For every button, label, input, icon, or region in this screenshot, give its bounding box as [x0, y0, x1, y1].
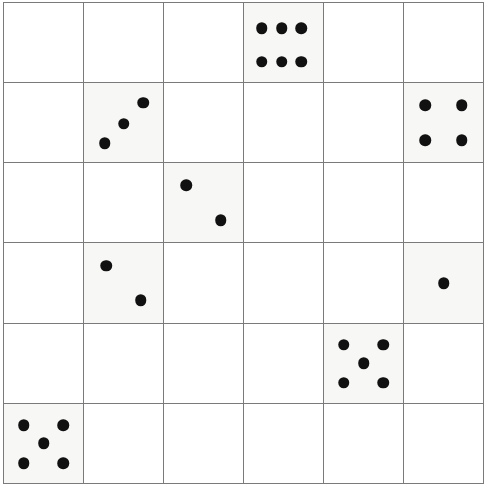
die-pip [276, 23, 288, 35]
die-pip [99, 138, 111, 150]
die-pip [138, 97, 150, 109]
die-pip [256, 23, 268, 35]
die-face-five [324, 324, 403, 403]
empty-cell-r4c4[interactable] [244, 243, 324, 323]
die-face-three [84, 83, 163, 162]
empty-cell-r3c2[interactable] [84, 163, 164, 243]
die-pip [18, 457, 30, 469]
die-pip [256, 56, 268, 68]
die-pip [420, 134, 432, 146]
die-cell-r4c2[interactable] [84, 243, 164, 323]
empty-cell-r4c3[interactable] [164, 243, 244, 323]
empty-cell-r2c5[interactable] [324, 83, 404, 163]
die-face-two [164, 163, 243, 242]
die-face-four [404, 83, 483, 162]
die-face-five [4, 404, 83, 483]
die-cell-r5c5[interactable] [324, 324, 404, 404]
die-cell-r3c3[interactable] [164, 163, 244, 243]
empty-cell-r2c4[interactable] [244, 83, 324, 163]
empty-cell-r5c1[interactable] [4, 324, 84, 404]
empty-cell-r3c6[interactable] [404, 163, 484, 243]
die-pip [456, 100, 468, 112]
empty-cell-r2c3[interactable] [164, 83, 244, 163]
die-pip [135, 295, 147, 307]
die-face-six [244, 3, 323, 82]
empty-cell-r6c2[interactable] [84, 404, 164, 484]
empty-cell-r4c1[interactable] [4, 243, 84, 323]
die-pip [296, 56, 308, 68]
dice-grid-board [3, 2, 484, 484]
die-pip [420, 100, 432, 112]
die-face-two [84, 243, 163, 322]
die-pip [338, 339, 350, 351]
die-pip [456, 134, 468, 146]
die-pip [100, 260, 112, 272]
empty-cell-r4c5[interactable] [324, 243, 404, 323]
die-cell-r2c6[interactable] [404, 83, 484, 163]
die-pip [180, 180, 192, 192]
empty-cell-r1c6[interactable] [404, 3, 484, 83]
empty-cell-r1c2[interactable] [84, 3, 164, 83]
empty-cell-r3c1[interactable] [4, 163, 84, 243]
empty-cell-r2c1[interactable] [4, 83, 84, 163]
empty-cell-r5c6[interactable] [404, 324, 484, 404]
die-cell-r6c1[interactable] [4, 404, 84, 484]
die-pip [438, 277, 450, 289]
empty-cell-r5c3[interactable] [164, 324, 244, 404]
empty-cell-r1c3[interactable] [164, 3, 244, 83]
die-pip [338, 377, 350, 389]
empty-cell-r1c1[interactable] [4, 3, 84, 83]
die-pip [296, 23, 308, 35]
die-cell-r1c4[interactable] [244, 3, 324, 83]
empty-cell-r5c4[interactable] [244, 324, 324, 404]
die-pip [358, 357, 370, 369]
die-pip [38, 438, 50, 450]
empty-cell-r6c4[interactable] [244, 404, 324, 484]
empty-cell-r3c4[interactable] [244, 163, 324, 243]
die-cell-r2c2[interactable] [84, 83, 164, 163]
empty-cell-r5c2[interactable] [84, 324, 164, 404]
die-pip [58, 419, 70, 431]
die-pip [58, 457, 70, 469]
die-face-one [404, 243, 483, 322]
die-pip [18, 419, 30, 431]
empty-cell-r6c5[interactable] [324, 404, 404, 484]
empty-cell-r1c5[interactable] [324, 3, 404, 83]
empty-cell-r6c6[interactable] [404, 404, 484, 484]
die-pip [118, 118, 130, 130]
die-pip [378, 377, 390, 389]
die-pip [215, 215, 227, 227]
die-pip [276, 56, 288, 68]
die-cell-r4c6[interactable] [404, 243, 484, 323]
empty-cell-r3c5[interactable] [324, 163, 404, 243]
die-pip [378, 339, 390, 351]
empty-cell-r6c3[interactable] [164, 404, 244, 484]
